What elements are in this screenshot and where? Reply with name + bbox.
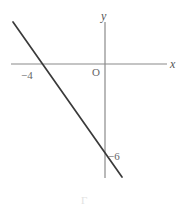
coordinate-plane-svg: x y O −4 −6 Γ <box>0 0 187 210</box>
y-intercept-label: −6 <box>108 150 120 162</box>
x-intercept-label: −4 <box>21 69 33 81</box>
plotted-line <box>13 22 122 177</box>
x-axis-label: x <box>169 57 176 71</box>
y-axis-label: y <box>100 9 107 23</box>
graph-figure: x y O −4 −6 Γ <box>0 0 187 210</box>
origin-label: O <box>92 66 100 78</box>
stray-bracket-artifact: Γ <box>81 194 87 206</box>
